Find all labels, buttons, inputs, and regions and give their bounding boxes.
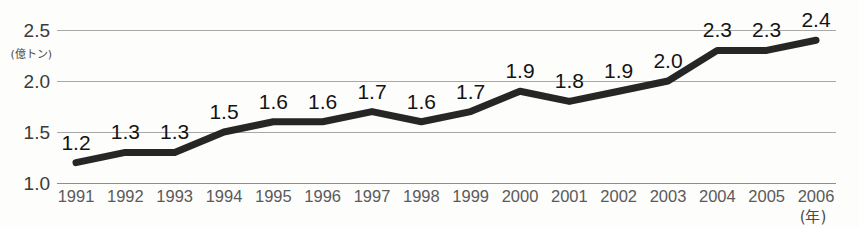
series-line xyxy=(76,40,816,162)
point-label-2001: 1.8 xyxy=(555,69,584,92)
point-label-1998: 1.6 xyxy=(407,90,436,113)
x-axis-ticks: 1991199219931994199519961997199819992000… xyxy=(58,187,835,205)
point-label-1996: 1.6 xyxy=(308,90,337,113)
point-label-2005: 2.3 xyxy=(752,18,781,41)
y-tick-label-1.5: 1.5 xyxy=(24,122,50,143)
point-label-1997: 1.7 xyxy=(357,80,386,103)
point-label-1995: 1.6 xyxy=(259,90,288,113)
point-label-2004: 2.3 xyxy=(703,18,732,41)
point-label-1992: 1.3 xyxy=(111,120,140,143)
point-label-2003: 2.0 xyxy=(653,49,682,72)
x-tick-label-2006: 2006 xyxy=(798,187,835,205)
x-tick-label-2004: 2004 xyxy=(699,187,736,205)
point-label-2000: 1.9 xyxy=(505,59,534,82)
y-tick-label-1.0: 1.0 xyxy=(24,173,50,194)
x-tick-label-2000: 2000 xyxy=(502,187,539,205)
y-tick-label-2.5: 2.5 xyxy=(24,20,50,41)
point-label-1999: 1.7 xyxy=(456,80,485,103)
x-tick-label-2005: 2005 xyxy=(748,187,785,205)
y-axis-ticks: 1.01.52.02.5 xyxy=(24,20,50,194)
x-tick-label-2003: 2003 xyxy=(650,187,687,205)
x-tick-label-1995: 1995 xyxy=(255,187,292,205)
x-tick-label-1994: 1994 xyxy=(206,187,243,205)
line-chart: 1.01.52.02.5 199119921993199419951996199… xyxy=(0,0,859,228)
x-tick-label-1996: 1996 xyxy=(304,187,341,205)
point-label-2002: 1.9 xyxy=(604,59,633,82)
data-series xyxy=(76,40,816,162)
x-tick-label-1999: 1999 xyxy=(452,187,489,205)
point-label-1991: 1.2 xyxy=(61,131,90,154)
x-tick-label-1997: 1997 xyxy=(354,187,391,205)
y-tick-label-2.0: 2.0 xyxy=(24,71,50,92)
y-axis-unit-label: (億トン) xyxy=(10,48,52,61)
chart-canvas: 1.01.52.02.5 199119921993199419951996199… xyxy=(0,0,859,228)
x-axis-unit-label: (年) xyxy=(800,208,827,226)
x-tick-label-2001: 2001 xyxy=(551,187,588,205)
x-tick-label-1993: 1993 xyxy=(156,187,193,205)
point-label-1993: 1.3 xyxy=(160,120,189,143)
x-tick-label-1991: 1991 xyxy=(58,187,95,205)
x-tick-label-1992: 1992 xyxy=(107,187,144,205)
x-tick-label-2002: 2002 xyxy=(600,187,637,205)
point-label-2006: 2.4 xyxy=(801,8,831,31)
point-label-1994: 1.5 xyxy=(209,100,238,123)
x-tick-label-1998: 1998 xyxy=(403,187,440,205)
